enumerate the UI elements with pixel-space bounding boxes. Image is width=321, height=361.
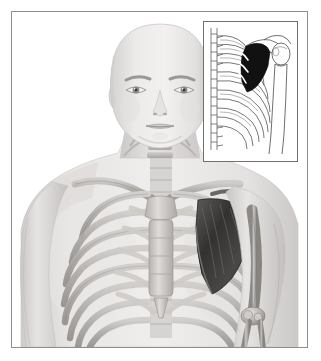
nostril-left: [163, 113, 167, 116]
inset-background: [204, 22, 297, 161]
illustration-figure: Bald human figure, front view, semi-tran…: [0, 0, 321, 361]
cheek-left: [180, 94, 200, 122]
head: [109, 24, 211, 148]
nostril-right: [153, 113, 157, 116]
humeral-head: [272, 43, 290, 65]
radius-left: [260, 322, 263, 347]
chin: [152, 132, 168, 140]
cranium: [110, 24, 209, 148]
inset-lateral-skeleton-illustration: [204, 22, 297, 161]
illustration-stage: [12, 12, 307, 347]
sternum-body: [149, 220, 173, 296]
illustration-frame: [11, 11, 308, 348]
cheek-right: [120, 94, 140, 122]
inset-detail-panel: [203, 21, 298, 162]
manubrium: [145, 196, 177, 220]
